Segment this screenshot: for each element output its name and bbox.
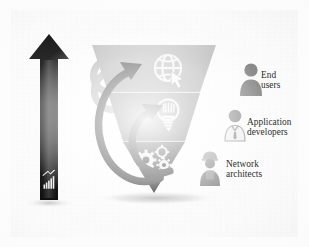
growth-arrow [29,34,69,200]
audience-label-line1: Application [247,117,291,127]
person-shirt-tie-icon [225,110,245,141]
person-icon [240,63,262,96]
audience-label-line2: architects [226,169,262,179]
audience-label-line2: users [261,80,280,90]
funnel-shadow [96,191,216,205]
audience-label-application-developers: Application developers [247,117,291,138]
audience-label-line1: End [261,70,280,80]
audience-label-line2: developers [247,127,291,137]
person-hardhat-icon [200,152,220,186]
diagram-canvas: End users Application developers Network… [0,0,309,247]
audience-label-network-architects: Network architects [226,159,262,180]
audience-label-end-users: End users [261,70,280,91]
audience-label-line1: Network [226,159,262,169]
